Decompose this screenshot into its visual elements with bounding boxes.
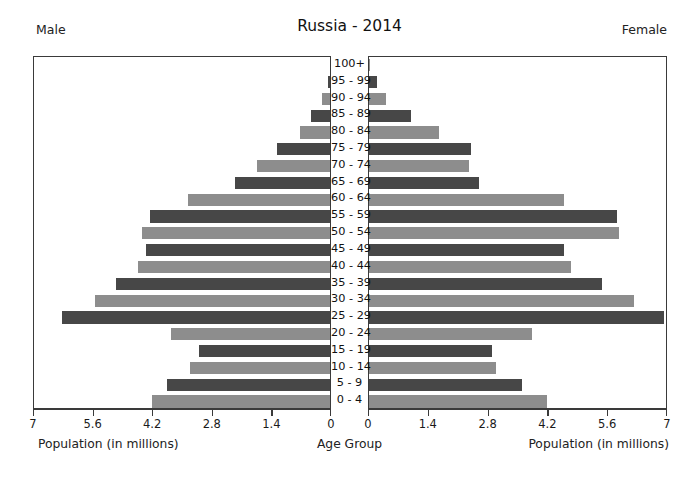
bar-female-10-14 bbox=[369, 362, 496, 374]
age-group-label: 35 - 39 bbox=[331, 275, 368, 292]
bar-female-45-49 bbox=[369, 244, 564, 256]
table-row bbox=[369, 242, 666, 259]
table-row bbox=[369, 57, 666, 74]
age-group-label: 0 - 4 bbox=[331, 392, 368, 409]
table-row bbox=[34, 208, 330, 225]
age-group-label: 80 - 84 bbox=[331, 123, 368, 140]
table-row bbox=[369, 326, 666, 343]
axis-tick-label: 0 bbox=[327, 417, 334, 431]
table-row bbox=[34, 360, 330, 377]
bar-male-30-34 bbox=[95, 295, 330, 307]
axis-tick bbox=[330, 409, 331, 416]
table-row bbox=[369, 343, 666, 360]
table-row bbox=[34, 91, 330, 108]
table-row bbox=[369, 107, 666, 124]
female-bar-rows bbox=[369, 57, 666, 408]
axis-tick-label: 4.2 bbox=[538, 417, 556, 431]
axis-tick bbox=[271, 409, 272, 416]
age-group-label: 60 - 64 bbox=[331, 190, 368, 207]
bar-male-60-64 bbox=[188, 194, 330, 206]
axis-tick-label: 7 bbox=[29, 417, 36, 431]
age-group-axis-labels: 100+95 - 9990 - 9485 - 8980 - 8475 - 797… bbox=[331, 56, 368, 409]
bar-male-45-49 bbox=[146, 244, 330, 256]
table-row bbox=[369, 292, 666, 309]
age-group-label: 10 - 14 bbox=[331, 359, 368, 376]
bar-female-40-44 bbox=[369, 261, 571, 273]
table-row bbox=[34, 225, 330, 242]
table-row bbox=[34, 376, 330, 393]
female-x-axis: 01.42.84.25.67 bbox=[368, 409, 667, 431]
table-row bbox=[369, 91, 666, 108]
bar-female-20-24 bbox=[369, 328, 532, 340]
bar-female-80-84 bbox=[369, 126, 439, 138]
bar-male-15-19 bbox=[199, 345, 330, 357]
bar-female-15-19 bbox=[369, 345, 492, 357]
table-row bbox=[34, 292, 330, 309]
axis-tick-label: 2.8 bbox=[203, 417, 221, 431]
bar-male-85-89 bbox=[311, 110, 330, 122]
age-group-label: 95 - 99 bbox=[331, 73, 368, 90]
axis-tick-label: 7 bbox=[663, 417, 670, 431]
table-row bbox=[369, 276, 666, 293]
age-group-label: 85 - 89 bbox=[331, 106, 368, 123]
bar-female-70-74 bbox=[369, 160, 469, 172]
table-row bbox=[34, 393, 330, 409]
bar-male-40-44 bbox=[138, 261, 330, 273]
bar-female-60-64 bbox=[369, 194, 564, 206]
bar-male-5-9 bbox=[167, 379, 330, 391]
age-group-label: 100+ bbox=[331, 56, 368, 73]
bar-female-100plus bbox=[369, 59, 370, 71]
axis-tick-label: 5.6 bbox=[598, 417, 616, 431]
bar-male-0-4 bbox=[152, 395, 330, 407]
bar-female-35-39 bbox=[369, 278, 602, 290]
axis-tick-label: 1.4 bbox=[262, 417, 280, 431]
table-row bbox=[34, 309, 330, 326]
age-group-label: 50 - 54 bbox=[331, 224, 368, 241]
axis-tick-label: 0 bbox=[364, 417, 371, 431]
age-group-label: 5 - 9 bbox=[331, 375, 368, 392]
table-row bbox=[34, 74, 330, 91]
table-row bbox=[369, 376, 666, 393]
bar-male-10-14 bbox=[190, 362, 330, 374]
age-group-label: 45 - 49 bbox=[331, 241, 368, 258]
bar-male-25-29 bbox=[62, 311, 331, 323]
chart-title: Russia - 2014 bbox=[0, 17, 699, 35]
axis-tick bbox=[607, 409, 608, 416]
age-group-label: 70 - 74 bbox=[331, 157, 368, 174]
table-row bbox=[34, 191, 330, 208]
axis-tick-label: 4.2 bbox=[143, 417, 161, 431]
axis-tick bbox=[93, 409, 94, 416]
table-row bbox=[369, 141, 666, 158]
table-row bbox=[369, 208, 666, 225]
bar-male-95-99 bbox=[328, 76, 330, 88]
table-row bbox=[34, 158, 330, 175]
bar-male-55-59 bbox=[150, 210, 330, 222]
bar-female-65-69 bbox=[369, 177, 479, 189]
age-group-label: 15 - 19 bbox=[331, 342, 368, 359]
male-plot-panel bbox=[33, 56, 331, 409]
male-axis-line bbox=[33, 409, 331, 410]
table-row bbox=[369, 393, 666, 409]
table-row bbox=[369, 360, 666, 377]
axis-tick bbox=[212, 409, 213, 416]
bar-female-25-29 bbox=[369, 311, 664, 323]
bar-female-30-34 bbox=[369, 295, 634, 307]
axis-tick bbox=[33, 409, 34, 416]
population-pyramid-chart: Male Russia - 2014 Female 100+95 - 9990 … bbox=[0, 0, 699, 482]
table-row bbox=[34, 107, 330, 124]
age-group-label: 75 - 79 bbox=[331, 140, 368, 157]
female-axis-title: Population (in millions) bbox=[528, 437, 669, 451]
table-row bbox=[369, 225, 666, 242]
age-group-label: 90 - 94 bbox=[331, 90, 368, 107]
axis-tick bbox=[368, 409, 369, 416]
bar-male-65-69 bbox=[235, 177, 330, 189]
table-row bbox=[34, 175, 330, 192]
table-row bbox=[34, 141, 330, 158]
female-legend-label: Female bbox=[622, 22, 667, 37]
axis-tick bbox=[428, 409, 429, 416]
age-group-label: 55 - 59 bbox=[331, 207, 368, 224]
bar-male-75-79 bbox=[277, 143, 330, 155]
table-row bbox=[34, 259, 330, 276]
table-row bbox=[34, 326, 330, 343]
table-row bbox=[34, 124, 330, 141]
